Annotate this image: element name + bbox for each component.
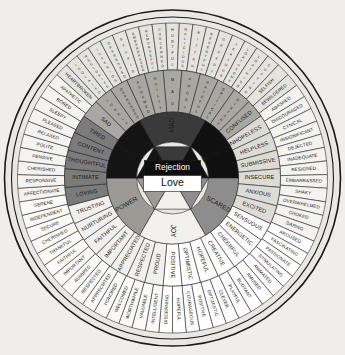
ring-label: INTIMATE	[72, 174, 99, 180]
ring-label: HOPEFUL	[176, 298, 182, 321]
svg-text:F: F	[171, 51, 173, 55]
ring-label: JOY	[170, 225, 177, 238]
ring-label: INSECURE	[245, 174, 275, 180]
svg-text:T: T	[171, 45, 173, 49]
svg-text:M: M	[171, 78, 174, 82]
ring-label: RESPONSIVE	[26, 178, 57, 184]
ring-label: EMBARRASSED	[286, 178, 323, 184]
ring-label: POSITIVE	[170, 252, 176, 279]
feeling-wheel-diagram: RejectionLove HURTFULMALICIOUSBITTERRESE…	[0, 0, 345, 355]
feeling-wheel-container: RejectionLove HURTFULMALICIOUSBITTERRESE…	[0, 0, 345, 355]
svg-text:L: L	[172, 63, 174, 67]
ring-label: MAD	[168, 117, 175, 132]
center-label-love: Love	[161, 176, 184, 188]
core-label-rejection: Rejection	[155, 162, 190, 172]
svg-text:D: D	[171, 102, 174, 106]
